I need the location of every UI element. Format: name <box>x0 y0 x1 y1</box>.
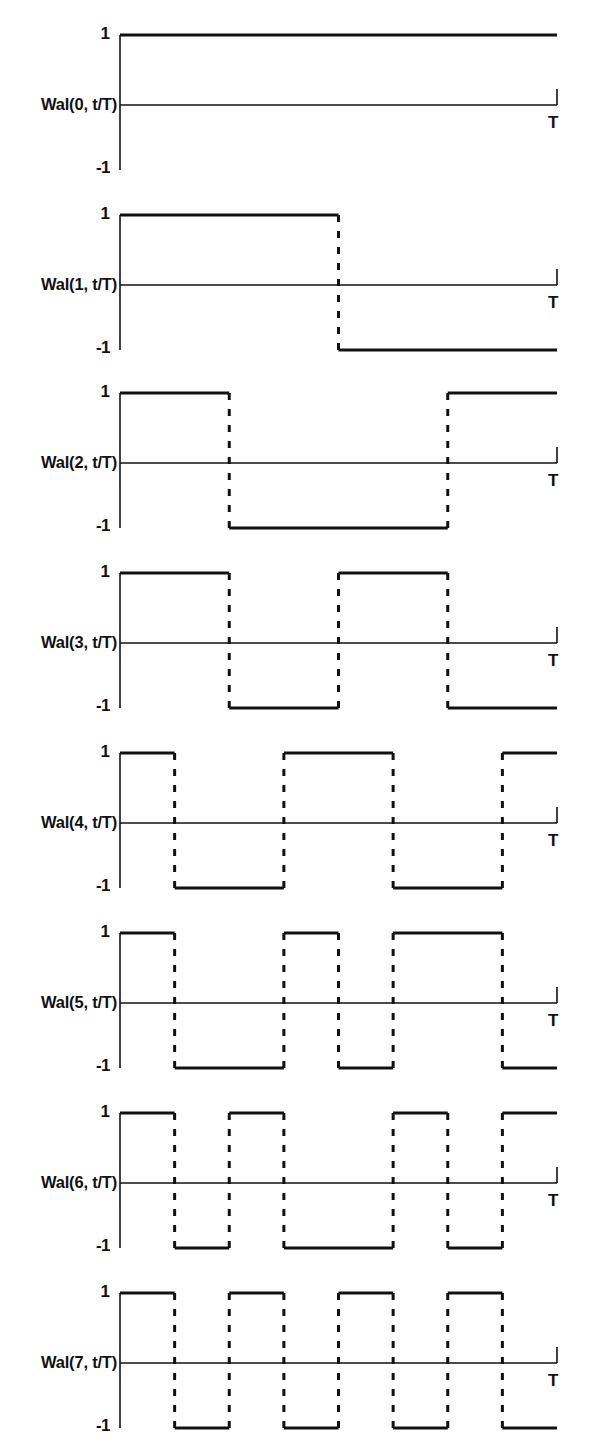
x-tick-label-T: T <box>548 294 558 311</box>
series-label-wal-3: Wal(3, t/T) <box>0 633 117 652</box>
series-label-wal-7: Wal(7, t/T) <box>0 1353 117 1372</box>
y-tick-label-negative-one: -1 <box>82 339 110 356</box>
y-tick-label-positive-one: 1 <box>90 205 110 222</box>
y-tick-label-positive-one: 1 <box>90 1283 110 1300</box>
y-tick-label-negative-one: -1 <box>82 517 110 534</box>
x-tick-label-T: T <box>548 114 558 131</box>
walsh-panel: 1-1Wal(5, t/T)T <box>0 898 590 1078</box>
y-tick-label-positive-one: 1 <box>90 383 110 400</box>
y-tick-label-negative-one: -1 <box>82 1237 110 1254</box>
y-tick-label-negative-one: -1 <box>82 877 110 894</box>
series-label-wal-2: Wal(2, t/T) <box>0 453 117 472</box>
walsh-panel: 1-1Wal(4, t/T)T <box>0 718 590 898</box>
y-tick-label-positive-one: 1 <box>90 25 110 42</box>
walsh-panel: 1-1Wal(3, t/T)T <box>0 538 590 718</box>
y-tick-label-negative-one: -1 <box>82 697 110 714</box>
x-tick-label-T: T <box>548 1012 558 1029</box>
x-tick-label-T: T <box>548 1192 558 1209</box>
walsh-panel: 1-1Wal(6, t/T)T <box>0 1078 590 1258</box>
waveform-plot <box>0 358 590 538</box>
waveform-plot <box>0 718 590 898</box>
y-tick-label-positive-one: 1 <box>90 1103 110 1120</box>
y-tick-label-negative-one: -1 <box>82 159 110 176</box>
waveform-plot <box>0 0 590 180</box>
waveform-plot <box>0 1258 590 1438</box>
series-label-wal-5: Wal(5, t/T) <box>0 993 117 1012</box>
waveform-plot <box>0 538 590 718</box>
walsh-functions-figure: 1-1Wal(0, t/T)T1-1Wal(1, t/T)T1-1Wal(2, … <box>0 0 590 1444</box>
walsh-panel: 1-1Wal(0, t/T)T <box>0 0 590 180</box>
y-tick-label-positive-one: 1 <box>90 563 110 580</box>
x-tick-label-T: T <box>548 832 558 849</box>
x-tick-label-T: T <box>548 1372 558 1389</box>
walsh-panel: 1-1Wal(7, t/T)T <box>0 1258 590 1438</box>
walsh-panel: 1-1Wal(1, t/T)T <box>0 180 590 360</box>
series-label-wal-1: Wal(1, t/T) <box>0 275 117 294</box>
waveform-plot <box>0 180 590 360</box>
waveform-plot <box>0 1078 590 1258</box>
x-tick-label-T: T <box>548 652 558 669</box>
series-label-wal-6: Wal(6, t/T) <box>0 1173 117 1192</box>
y-tick-label-negative-one: -1 <box>82 1417 110 1434</box>
walsh-panel: 1-1Wal(2, t/T)T <box>0 358 590 538</box>
y-tick-label-negative-one: -1 <box>82 1057 110 1074</box>
x-tick-label-T: T <box>548 472 558 489</box>
waveform-plot <box>0 898 590 1078</box>
y-tick-label-positive-one: 1 <box>90 743 110 760</box>
series-label-wal-0: Wal(0, t/T) <box>0 95 117 114</box>
y-tick-label-positive-one: 1 <box>90 923 110 940</box>
series-label-wal-4: Wal(4, t/T) <box>0 813 117 832</box>
